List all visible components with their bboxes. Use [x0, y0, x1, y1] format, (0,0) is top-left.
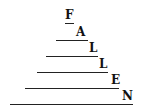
step-line-2 — [46, 56, 98, 57]
step-line-1 — [56, 40, 88, 41]
step-line-5 — [10, 104, 133, 105]
letter-n: N — [122, 90, 133, 102]
f-underline — [65, 23, 74, 24]
letter-a: A — [76, 26, 85, 38]
letter-l2: L — [99, 58, 107, 70]
letter-f: F — [65, 9, 74, 21]
letter-l1: L — [89, 42, 97, 54]
step-line-3 — [37, 72, 108, 73]
step-line-4 — [25, 88, 119, 89]
letter-e: E — [111, 74, 120, 86]
